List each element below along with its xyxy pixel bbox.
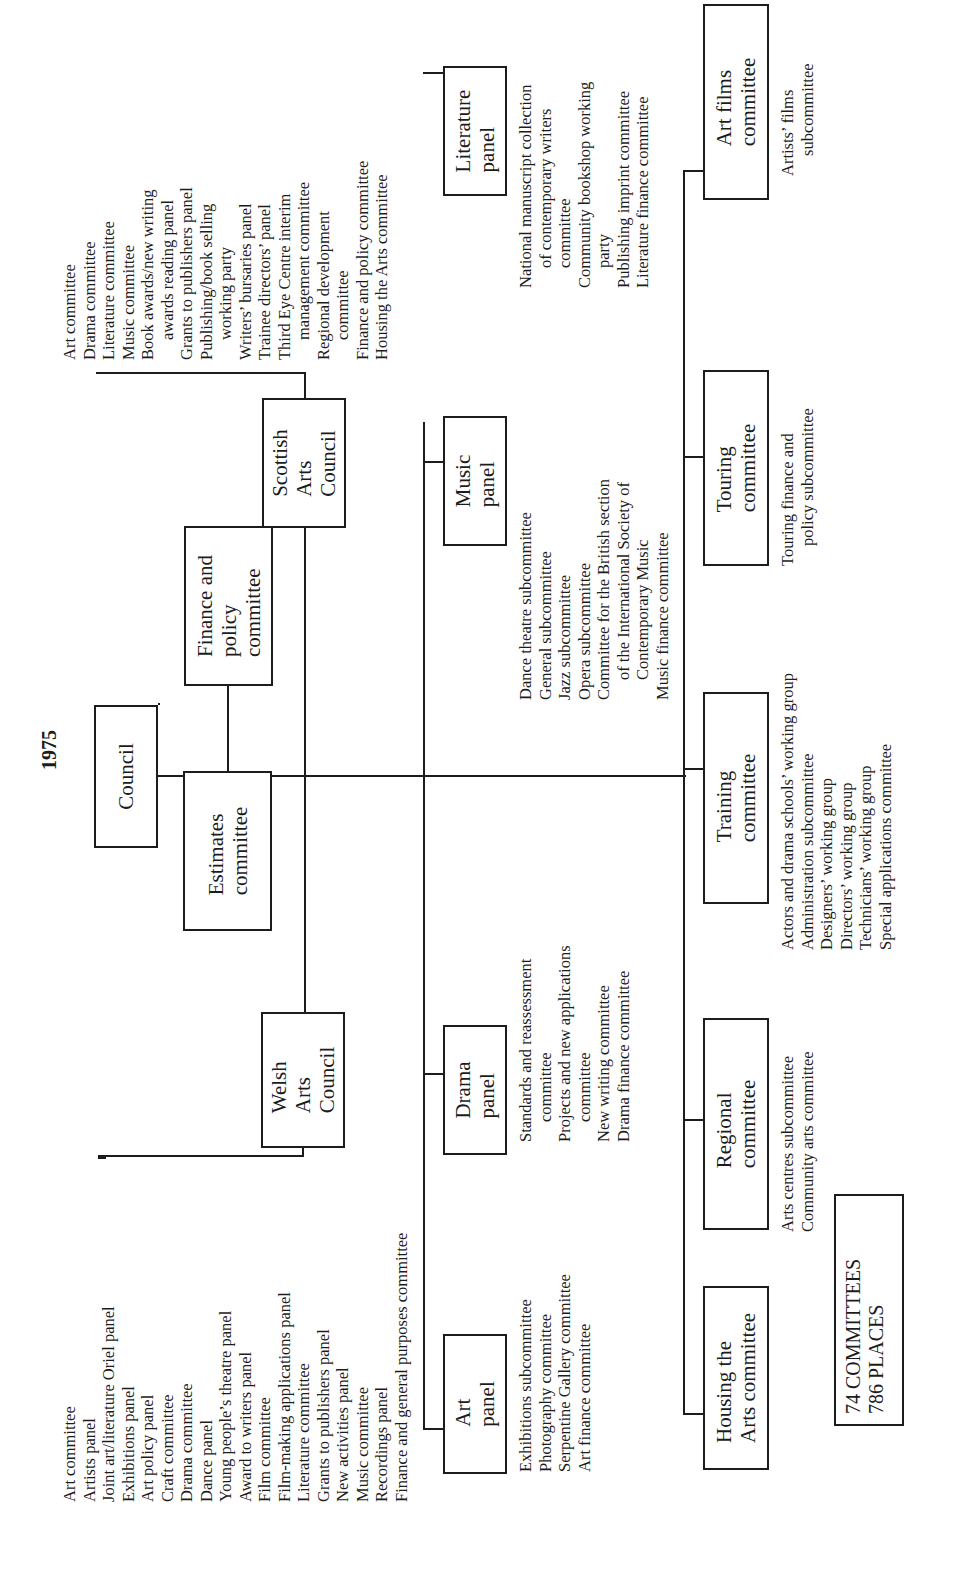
list-item: awards reading panel <box>158 20 178 360</box>
list-item: Opera subcommittee <box>575 479 595 700</box>
list-item: Technicians’ working group <box>856 673 876 950</box>
welsh-arts-council-box: Welsh Arts Council <box>261 1012 345 1148</box>
list-item: Music committee <box>119 20 139 360</box>
list-item: New writing committee <box>594 945 614 1142</box>
list-item: Literature committee <box>294 1162 314 1502</box>
list-item: Literature committee <box>99 20 119 360</box>
council-label: Council <box>114 743 138 810</box>
list-item: Drama committee <box>177 1162 197 1502</box>
list-item: Dance panel <box>197 1162 217 1502</box>
touring-committee-box: Touring committee <box>703 370 769 566</box>
list-item: committee <box>333 20 353 360</box>
scottish-arts-council-box: Scottish Arts Council <box>262 398 346 528</box>
list-item: Art finance committee <box>575 1274 595 1472</box>
list-item: Literature finance committee <box>633 82 653 288</box>
list-item: Administration subcommittee <box>798 673 818 950</box>
list-item: Exhibitions subcommittee <box>516 1274 536 1472</box>
list-item: Publishing imprint committee <box>614 82 634 288</box>
welsh-committee-list: Art committee Artists panel Joint art/li… <box>60 1162 411 1502</box>
art-films-committee-label: Art films committee <box>712 58 760 147</box>
estimates-label: Estimates committee <box>204 807 252 896</box>
art-panel-box: Art panel <box>443 1334 507 1474</box>
list-item: party <box>594 82 614 288</box>
list-item: Young people’s theatre panel <box>216 1162 236 1502</box>
regional-committee-label: Regional committee <box>712 1080 760 1169</box>
touring-committee-list: Touring finance and policy subcommittee <box>778 408 817 566</box>
list-item: Music finance committee <box>653 479 673 700</box>
housing-arts-committee-label: Housing the Arts committee <box>712 1313 760 1443</box>
list-item: of contemporary writers <box>536 82 556 288</box>
list-item: Artists panel <box>80 1162 100 1502</box>
list-item: Designers’ working group <box>817 673 837 950</box>
touring-drop <box>683 456 703 458</box>
list-item: Community arts committee <box>798 1051 818 1232</box>
regional-committee-list: Arts centres subcommittee Community arts… <box>778 1051 817 1232</box>
drama-panel-label: Drama panel <box>451 1061 499 1118</box>
literature-panel-label: Literature panel <box>451 90 499 173</box>
nations-bar <box>304 507 306 1070</box>
housing-arts-committee-box: Housing the Arts committee <box>703 1286 769 1470</box>
committees-bar <box>683 171 685 1415</box>
list-item: Touring finance and <box>778 408 798 566</box>
council-box: Council <box>94 705 158 848</box>
scottish-arts-council-label: Scottish Arts Council <box>268 429 340 497</box>
art-films-drop <box>683 170 703 172</box>
list-item: National manuscript collection <box>516 82 536 288</box>
list-item: Housing the Arts committee <box>372 20 392 360</box>
list-item: Community bookshop working <box>575 82 595 288</box>
list-item: Drama finance committee <box>614 945 634 1142</box>
summary-box: 74 COMMITTEES 786 PLACES <box>834 1194 904 1426</box>
finance-policy-box: Finance and policy committee <box>184 526 273 686</box>
list-item: Craft committee <box>158 1162 178 1502</box>
list-item: Committee for the British section <box>594 479 614 700</box>
literature-drop <box>423 72 443 74</box>
list-item: Special applications committee <box>876 673 896 950</box>
list-item: Serpentine Gallery committee <box>555 1274 575 1472</box>
literature-panel-list: National manuscript collection of contem… <box>516 82 653 288</box>
training-committee-box: Training committee <box>703 692 769 904</box>
council-connector <box>158 703 160 705</box>
scottish-committee-list: Art committee Drama committee Literature… <box>60 20 392 360</box>
drama-drop <box>423 1073 443 1075</box>
list-item: Writers’ bursaries panel <box>236 20 256 360</box>
list-item: Photography committee <box>536 1274 556 1472</box>
welsh-bracket-v2 <box>98 1155 304 1157</box>
welsh-arts-council-label: Welsh Arts Council <box>267 1047 339 1114</box>
list-item: Award to writers panel <box>236 1162 256 1502</box>
list-item: General subcommittee <box>536 479 556 700</box>
org-chart: 1975 Council Finance and policy committe… <box>0 0 965 1582</box>
music-panel-label: Music panel <box>451 455 499 508</box>
touring-committee-label: Touring committee <box>712 424 760 513</box>
list-item: Publishing/book selling <box>197 20 217 360</box>
regional-committee-box: Regional committee <box>703 1018 769 1230</box>
list-item: Artists’ films <box>778 63 798 176</box>
estimates-box: Estimates committee <box>183 771 272 931</box>
list-item: subcommittee <box>798 63 818 176</box>
list-item: Projects and new applications <box>555 945 575 1142</box>
committee-count: 74 COMMITTEES <box>842 1206 865 1414</box>
list-item: Dance theatre subcommittee <box>516 479 536 700</box>
list-item: working party <box>216 20 236 360</box>
list-item: Recordings panel <box>372 1162 392 1502</box>
fp-est-bar <box>227 686 229 771</box>
scottish-bracket-v2 <box>96 372 306 374</box>
list-item: Trainee directors’ panel <box>255 20 275 360</box>
list-item: Finance and general purposes committee <box>392 1162 412 1502</box>
list-item: committee <box>555 82 575 288</box>
art-panel-list: Exhibitions subcommittee Photography com… <box>516 1274 594 1472</box>
list-item: Music committee <box>353 1162 373 1502</box>
list-item: New activities panel <box>333 1162 353 1502</box>
list-item: Book awards/new writing <box>138 20 158 360</box>
list-item: committee <box>536 945 556 1142</box>
welsh-bracket-tick <box>98 1157 106 1159</box>
art-drop <box>423 1428 443 1430</box>
literature-panel-box: Literature panel <box>443 66 507 196</box>
list-item: of the International Society of <box>614 479 634 700</box>
list-item: Arts centres subcommittee <box>778 1051 798 1232</box>
training-committee-label: Training committee <box>712 754 760 843</box>
list-item: Exhibitions panel <box>119 1162 139 1502</box>
art-panel-label: Art panel <box>451 1381 499 1426</box>
list-item: Third Eye Centre interim <box>275 20 295 360</box>
list-item: Jazz subcommittee <box>555 479 575 700</box>
list-item: Grants to publishers panel <box>177 20 197 360</box>
